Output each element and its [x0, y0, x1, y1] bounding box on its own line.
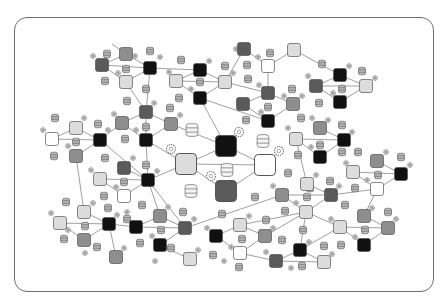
- database-icon: [319, 60, 326, 68]
- database-icon: [300, 226, 307, 234]
- gear-icon: [151, 100, 156, 105]
- database-icon: [359, 67, 366, 75]
- network-node: [338, 134, 351, 147]
- gear-icon: [206, 58, 211, 63]
- gear-icon: [191, 216, 196, 221]
- gear-icon: [256, 82, 261, 87]
- database-icon: [257, 135, 269, 148]
- network-node: [54, 217, 67, 230]
- database-icon: [63, 198, 70, 206]
- network-link: [150, 68, 200, 70]
- gear-icon: [188, 86, 193, 91]
- database-icon: [104, 50, 111, 58]
- database-icon: [137, 239, 144, 247]
- hub-node: [216, 181, 237, 202]
- network-link: [294, 50, 340, 75]
- gear-icon: [275, 147, 284, 156]
- network-node: [262, 60, 275, 73]
- database-icon: [95, 120, 102, 128]
- network-node: [262, 87, 275, 100]
- gear-icon: [285, 125, 290, 130]
- gear-icon: [207, 172, 216, 181]
- network-node: [78, 206, 91, 219]
- network-node: [290, 133, 303, 146]
- network-node: [234, 247, 247, 260]
- database-icon: [124, 97, 131, 105]
- node-layer: [46, 43, 408, 269]
- database-icon: [221, 164, 233, 177]
- network-node: [294, 244, 307, 257]
- database-icon: [102, 154, 109, 162]
- database-icon: [265, 103, 272, 111]
- network-node: [262, 115, 275, 128]
- database-icon: [176, 94, 183, 102]
- network-node: [46, 133, 59, 146]
- network-node: [116, 117, 129, 130]
- gear-icon: [305, 73, 310, 78]
- network-node: [170, 75, 183, 88]
- gear-icon: [288, 265, 293, 270]
- network-node: [142, 174, 155, 187]
- network-node: [334, 96, 347, 109]
- network-node: [287, 98, 300, 111]
- gear-icon: [149, 233, 154, 238]
- network-node: [110, 251, 123, 264]
- gear-icon: [270, 183, 275, 188]
- database-icon: [267, 49, 274, 57]
- database-icon: [263, 216, 270, 224]
- network-node: [395, 168, 408, 181]
- gear-icon: [364, 177, 369, 182]
- gear-icon: [281, 93, 286, 98]
- database-icon: [121, 178, 128, 186]
- database-icon: [339, 148, 346, 156]
- database-icon: [101, 192, 108, 200]
- network-node: [334, 69, 347, 82]
- database-icon: [219, 210, 226, 218]
- gear-icon: [157, 54, 162, 59]
- gear-icon: [306, 239, 311, 244]
- gear-icon: [330, 90, 335, 95]
- network-diagram: [0, 0, 445, 306]
- network-node: [154, 210, 167, 223]
- database-icon: [168, 244, 175, 252]
- network-node: [371, 155, 384, 168]
- database-icon: [317, 141, 324, 149]
- network-node: [270, 255, 283, 268]
- database-icon: [82, 222, 89, 230]
- database-icon: [244, 61, 251, 69]
- database-icon: [147, 47, 154, 55]
- gear-icon: [235, 128, 244, 137]
- network-node: [94, 134, 107, 147]
- gear-icon: [325, 117, 330, 122]
- network-node: [184, 253, 197, 266]
- database-icon: [338, 241, 345, 249]
- gear-icon: [65, 143, 70, 148]
- database-icon: [139, 201, 146, 209]
- database-icon: [186, 124, 198, 137]
- hub-node: [216, 136, 237, 157]
- network-node: [120, 48, 133, 61]
- hub-node: [176, 154, 197, 175]
- database-icon: [298, 114, 305, 122]
- network-node: [318, 256, 331, 269]
- gear-icon: [336, 183, 341, 188]
- network-node: [154, 239, 167, 252]
- gear-icon: [90, 53, 95, 58]
- database-icon: [51, 152, 58, 160]
- network-node: [194, 92, 207, 105]
- gear-icon: [121, 245, 126, 250]
- network-node: [358, 210, 371, 223]
- network-node: [371, 183, 384, 196]
- gear-icon: [114, 212, 119, 217]
- gear-icon: [329, 251, 334, 256]
- gear-icon: [313, 172, 318, 177]
- gear-icon: [270, 225, 275, 230]
- database-icon: [123, 65, 130, 73]
- network-link: [76, 156, 84, 212]
- database-icon: [398, 153, 405, 161]
- gear-icon: [82, 250, 87, 255]
- database-icon: [197, 78, 204, 86]
- network-node: [210, 230, 223, 243]
- network-node: [358, 239, 371, 252]
- gear-icon: [346, 63, 351, 68]
